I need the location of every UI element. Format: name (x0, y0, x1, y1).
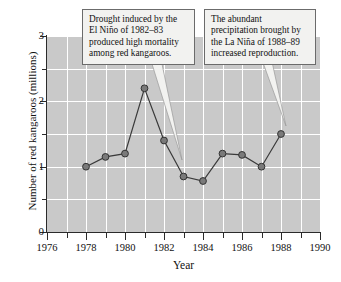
y-tick-label: 0 (28, 226, 44, 237)
x-tick-minor (301, 233, 302, 238)
gridline-vertical (320, 36, 321, 232)
x-tick-minor (145, 233, 146, 238)
x-tick-minor (262, 233, 263, 238)
x-tick-label: 1988 (261, 242, 301, 253)
gridline-vertical (184, 36, 185, 232)
x-tick-label: 1990 (300, 242, 340, 253)
gridline-vertical (262, 36, 263, 232)
x-tick-minor (223, 233, 224, 238)
drought-callout-line-4: among red kangaroos. (89, 48, 189, 59)
gridline-vertical (145, 36, 146, 232)
gridline-vertical (86, 36, 87, 232)
y-tick-minor (42, 69, 47, 70)
precipitation-callout-line-1: The abundant (211, 14, 310, 25)
x-tick-label: 1976 (27, 242, 67, 253)
x-tick-label: 1982 (144, 242, 184, 253)
drought-callout-line-1: Drought induced by the (89, 14, 189, 25)
x-tick-minor (184, 233, 185, 238)
drought-callout-line-2: El Niño of 1982–83 (89, 25, 189, 36)
x-tick-major (203, 233, 204, 240)
gridline-vertical (281, 36, 282, 232)
x-tick-minor (67, 233, 68, 238)
gridline-vertical (67, 36, 68, 232)
x-tick-label: 1984 (183, 242, 223, 253)
x-tick-major (125, 233, 126, 240)
x-tick-label: 1986 (222, 242, 262, 253)
kangaroo-population-chart: 012319761978198019821984198619881990 Num… (0, 0, 341, 282)
x-tick-major (164, 233, 165, 240)
precipitation-callout-line-3: the La Niña of 1988–89 (211, 37, 310, 48)
gridline-vertical (106, 36, 107, 232)
x-tick-minor (106, 233, 107, 238)
drought-callout: Drought induced by the El Niño of 1982–8… (82, 9, 195, 65)
precipitation-callout-line-2: precipitation brought by (211, 25, 310, 36)
gridline-vertical (223, 36, 224, 232)
precipitation-callout-line-4: increased reproduction. (211, 48, 310, 59)
y-axis-title: Number of red kangaroos (millions) (26, 36, 38, 226)
precipitation-callout: The abundant precipitation brought by th… (204, 9, 316, 65)
gridline-vertical (301, 36, 302, 232)
y-tick-minor (42, 199, 47, 200)
x-tick-major (320, 233, 321, 240)
gridline-vertical (164, 36, 165, 232)
x-tick-label: 1980 (105, 242, 145, 253)
gridline-vertical (125, 36, 126, 232)
x-tick-major (242, 233, 243, 240)
x-tick-label: 1978 (66, 242, 106, 253)
x-tick-major (281, 233, 282, 240)
gridline-vertical (242, 36, 243, 232)
x-tick-major (47, 233, 48, 240)
gridline-vertical (203, 36, 204, 232)
drought-callout-line-3: produced high mortality (89, 37, 189, 48)
x-axis-title: Year (47, 259, 320, 272)
x-tick-major (86, 233, 87, 240)
y-tick-minor (42, 134, 47, 135)
